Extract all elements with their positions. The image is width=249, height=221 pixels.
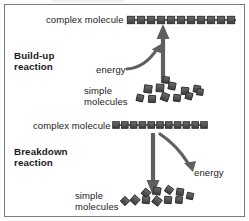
simple-molecule bbox=[136, 94, 144, 102]
breakdown-main-arrow bbox=[147, 133, 160, 196]
simple-molecule bbox=[185, 92, 193, 100]
molecule-unit bbox=[227, 16, 234, 23]
simple-molecule bbox=[168, 82, 176, 90]
simple-molecules-cluster-bottom bbox=[120, 185, 193, 206]
simple-molecule bbox=[164, 185, 173, 194]
diagram-graphics bbox=[0, 0, 249, 221]
molecule-unit bbox=[177, 16, 184, 23]
simple-molecule bbox=[162, 76, 169, 83]
molecule-unit bbox=[166, 122, 173, 129]
simple-molecule bbox=[142, 196, 150, 204]
simple-molecule bbox=[186, 192, 194, 200]
buildup-energy-arrow bbox=[127, 40, 165, 69]
molecule-unit bbox=[217, 16, 224, 23]
breakdown-energy-arrow bbox=[160, 134, 196, 172]
simple-molecule bbox=[120, 196, 129, 205]
simple-molecule bbox=[175, 196, 182, 203]
molecule-unit bbox=[157, 122, 164, 129]
molecule-unit bbox=[174, 122, 181, 129]
molecule-unit bbox=[130, 122, 137, 129]
molecule-unit bbox=[207, 16, 214, 23]
molecule-unit bbox=[113, 122, 120, 129]
molecule-unit bbox=[183, 122, 190, 129]
simple-molecule bbox=[156, 84, 164, 92]
buildup-main-arrow bbox=[157, 24, 170, 83]
molecule-unit bbox=[139, 122, 146, 129]
simple-molecule bbox=[176, 188, 184, 196]
molecule-unit bbox=[187, 16, 194, 23]
molecule-unit bbox=[127, 16, 134, 23]
molecule-unit bbox=[192, 122, 199, 129]
simple-molecule bbox=[164, 196, 172, 204]
complex-molecule-chain-top bbox=[127, 16, 236, 23]
simple-molecule bbox=[160, 92, 169, 101]
molecule-unit bbox=[167, 16, 174, 23]
simple-molecule bbox=[173, 94, 181, 102]
molecule-unit bbox=[147, 16, 154, 23]
simple-molecule bbox=[152, 196, 163, 207]
molecule-unit bbox=[157, 16, 164, 23]
simple-molecule bbox=[197, 89, 204, 96]
simple-molecules-cluster-top bbox=[136, 76, 203, 102]
simple-molecule bbox=[144, 85, 153, 94]
complex-molecule-chain-bottom bbox=[113, 122, 208, 129]
molecule-unit bbox=[201, 122, 208, 129]
diagram-figure: complex molecule Build-up reaction energ… bbox=[0, 0, 249, 221]
molecule-unit bbox=[137, 16, 144, 23]
simple-molecule bbox=[130, 195, 140, 205]
molecule-unit bbox=[122, 122, 129, 129]
molecule-unit bbox=[197, 16, 204, 23]
simple-molecule bbox=[153, 187, 161, 195]
molecule-unit bbox=[148, 122, 155, 129]
simple-molecule bbox=[148, 95, 155, 102]
